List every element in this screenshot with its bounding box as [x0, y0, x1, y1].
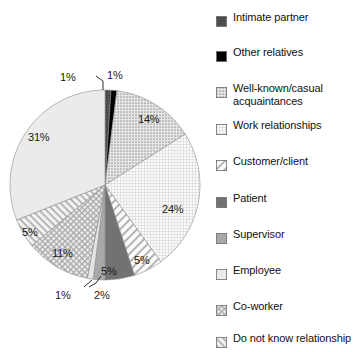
legend-item-label: Other relatives — [233, 46, 303, 59]
legend-swatch-icon — [216, 157, 227, 168]
legend-swatch-icon — [216, 194, 227, 205]
legend-item-label: Co-worker — [233, 300, 283, 313]
legend-swatch-icon — [216, 13, 227, 24]
legend-swatch-icon — [216, 334, 227, 345]
legend-item[interactable]: Customer/client — [216, 155, 364, 168]
legend-item[interactable]: Intimate partner — [216, 11, 364, 24]
pie-plot-area: 1%1%14%24%5%5%2%1%11%5%31% — [0, 0, 215, 347]
pie-slices — [10, 90, 200, 280]
legend-swatch-icon — [216, 48, 227, 59]
legend-item-label: Patient — [233, 192, 267, 205]
legend-item[interactable]: Co-worker — [216, 300, 364, 313]
legend-item-label: Employee — [233, 264, 281, 277]
legend-item[interactable]: Other relatives — [216, 46, 364, 59]
pie-slice-value-label: 1% — [107, 69, 123, 81]
pie-slice-value-label: 1% — [55, 289, 71, 301]
legend-item[interactable]: Employee — [216, 264, 364, 277]
legend-swatch-icon — [216, 121, 227, 132]
legend-item[interactable]: Work relationships — [216, 119, 364, 132]
legend-swatch-icon — [216, 302, 227, 313]
legend-item-label: Supervisor — [233, 228, 285, 241]
legend-item[interactable]: Do not know relationship — [216, 332, 364, 345]
pie-slice-value-label: 31% — [28, 131, 49, 143]
pie-slice-value-label: 24% — [162, 203, 183, 215]
leader-line-intimate-partner — [96, 76, 103, 90]
legend-swatch-icon — [216, 230, 227, 241]
pie-slice-value-label: 14% — [138, 113, 159, 125]
pie-slice-value-label: 1% — [60, 71, 76, 83]
legend-swatch-icon — [216, 84, 227, 95]
pie-slice-value-label: 5% — [101, 265, 117, 277]
legend-item-label: Intimate partner — [233, 11, 308, 24]
legend-item[interactable]: Supervisor — [216, 228, 364, 241]
legend-item-label: Do not know relationship — [233, 332, 351, 345]
chart-legend: Intimate partnerOther relativesWell-know… — [216, 0, 364, 347]
legend-item-label: Work relationships — [233, 119, 321, 132]
pie-slice-value-label: 5% — [134, 254, 150, 266]
legend-item[interactable]: Patient — [216, 192, 364, 205]
pie-slice-value-label: 5% — [22, 226, 38, 238]
legend-item-label: Well-known/casual acquaintances — [233, 82, 364, 108]
pie-slice-value-label: 11% — [52, 247, 73, 259]
pie-slice-value-label: 2% — [94, 289, 110, 301]
legend-swatch-icon — [216, 266, 227, 277]
legend-item[interactable]: Well-known/casual acquaintances — [216, 82, 364, 108]
legend-item-label: Customer/client — [233, 155, 308, 168]
